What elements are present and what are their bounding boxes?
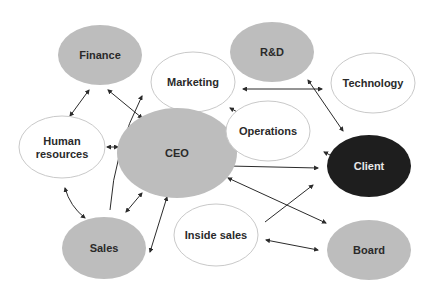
rnd-label: R&D	[260, 46, 284, 58]
nodes: FinanceR&DMarketingTechnologyHumanresour…	[19, 22, 415, 280]
sales-label: Sales	[90, 242, 119, 254]
operations-label: Operations	[239, 125, 297, 137]
edge-finance-ceo	[108, 90, 142, 118]
node-operations: Operations	[226, 101, 310, 161]
marketing-label: Marketing	[167, 76, 219, 88]
ceo-label: CEO	[165, 147, 189, 159]
org-diagram: FinanceR&DMarketingTechnologyHumanresour…	[0, 0, 432, 300]
edge-inside_sales-board	[266, 240, 318, 250]
node-board: Board	[327, 220, 411, 280]
node-technology: Technology	[331, 53, 415, 113]
inside_sales-label: Inside sales	[185, 229, 247, 241]
finance-label: Finance	[79, 49, 121, 61]
board-label: Board	[353, 244, 385, 256]
node-client: Client	[327, 135, 411, 197]
node-ceo: CEO	[117, 108, 237, 198]
hr-label: resources	[36, 148, 89, 160]
node-inside_sales: Inside sales	[174, 204, 258, 266]
node-sales: Sales	[62, 217, 146, 279]
edge-finance-hr	[70, 90, 89, 116]
edge-hr-sales	[65, 188, 85, 218]
node-finance: Finance	[58, 25, 142, 85]
edge-sales-ceo	[126, 193, 142, 212]
hr-label: Human	[43, 135, 81, 147]
client-label: Client	[354, 160, 385, 172]
edge-ceo-client	[229, 166, 318, 168]
edge-ceo-sales	[150, 197, 167, 252]
technology-label: Technology	[343, 77, 405, 89]
edge-inside_sales-client	[265, 185, 313, 222]
node-rnd: R&D	[230, 22, 314, 82]
node-marketing: Marketing	[151, 52, 235, 112]
node-hr: Humanresources	[19, 116, 105, 178]
